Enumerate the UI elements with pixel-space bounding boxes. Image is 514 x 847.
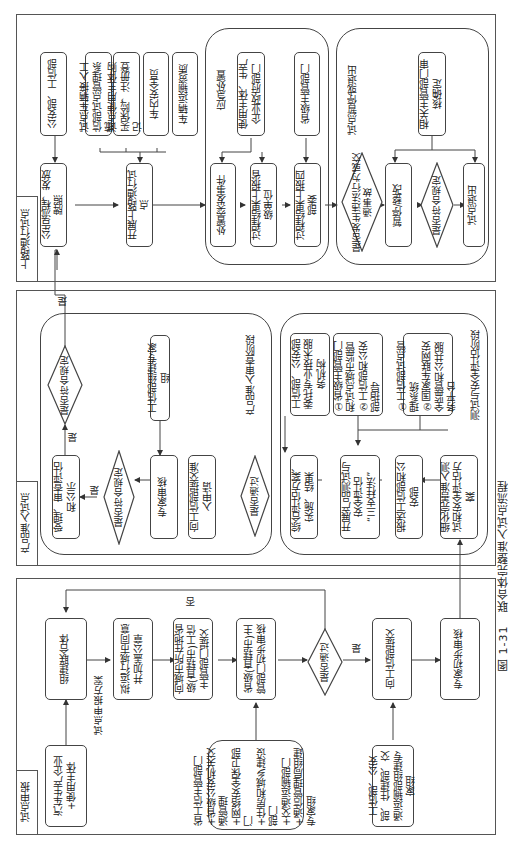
node-report-provincial: 过程结果上报省级单位	[250, 163, 277, 247]
group-title-exit: 试点暂停或退出	[345, 65, 360, 135]
group-title-review-stage: 产品准入审查阶段	[243, 335, 258, 415]
node-user-mfr-gov: 使用主体、生产企业政府部门	[237, 52, 265, 136]
node-provincial-depts: 省工信主管部门 +省级公安机关交通管理 +网络安全保卫部门 +住房和城乡建设部门…	[208, 740, 304, 830]
decision-passed-middle: 是否通过	[240, 455, 270, 537]
node-city-consent: 拟运行城市同意并加盖公章	[113, 618, 153, 700]
decision-compliant-2: 是否符合规定	[103, 450, 135, 545]
node-supervision: ①省级主管部门和试点城市监管 ②工信部和公安部指导	[333, 333, 383, 416]
node-systems: ①工信部试点管理系统 ②国家车联网安全监管和公共服务平台	[403, 333, 453, 416]
node-tech-agency: 工信部、公安部委托专业技术服务机构	[290, 333, 330, 416]
tag-road-pilot: 上路通行试点	[16, 196, 38, 282]
group-title-emergency: 应急处置	[214, 70, 229, 110]
node-manufacturer-user: 汽车生产企业+使用主体	[45, 745, 87, 827]
node-submit-access: 向工信部提交准入申请	[188, 455, 216, 539]
edge-label-plan: 试点申报方案	[92, 675, 106, 735]
figure-caption-vertical: 图 1-31 联合体完整准入试点流程	[496, 480, 512, 671]
edge-label-yes-3: 是	[88, 485, 102, 495]
node-handle-incident: 处置突发事件	[210, 163, 236, 247]
node-report-ministries: 报送工信部和公安部	[395, 455, 423, 539]
node-miit-expert-group: 工信部组建专家组	[150, 335, 170, 421]
node-overall-assessment: 综合评估方案、实施、结果	[290, 455, 318, 539]
node-start-road-pilot: 开展上路通行试点	[126, 163, 153, 247]
node-report-four: 过程结果上报四部委	[294, 163, 321, 247]
node-expert-prelim-review: 专家初步审核	[440, 618, 480, 700]
edge-label-yes-bottom: 是	[350, 643, 364, 653]
node-provincial-dept: 省级主管部门	[294, 52, 320, 136]
node-product-test: 开展产品测试与安全评估 “三支柱法”	[340, 455, 380, 539]
edge-label-yes-1: 是	[56, 296, 70, 306]
tag-pilot-application: 试点申报	[16, 770, 38, 835]
edge-label-yes-2: 是	[66, 432, 80, 442]
node-expert-review: 专家审核	[150, 455, 178, 539]
node-submit-provincial: 向城市所在地省级(直辖市)工信主管部门提交	[173, 618, 213, 700]
node-insurance-register: 试点使用主体购买保险，注册登记	[113, 52, 140, 136]
decision-violation: 是否发生违法行为或交通事故	[341, 152, 383, 252]
node-refine-plan: 细化完善准入测试和安全评估方案	[440, 455, 478, 539]
node-safety-officer: 车内安全员	[143, 52, 169, 136]
node-provincial-review: 省级(直辖市)主管部门初步审核	[236, 618, 276, 700]
node-form-consortium: 组建联合体	[45, 618, 87, 700]
decision-compliant-1: 是否符合规定	[47, 345, 83, 425]
node-ministries: 工信部、公安部、住建部、交通运输部组建专家组	[372, 745, 414, 827]
node-submit-miit: 向工信部提交	[372, 618, 412, 700]
node-transport-qualification: 车辆运输资质	[172, 52, 198, 136]
node-authority-confirm: 相关主管部门审核确定	[418, 52, 446, 136]
edge-label-no: 否	[184, 596, 198, 606]
node-accept-review: 受理、审查评估和公示	[52, 455, 80, 539]
group-title-test-stage: 测试与安全评估阶段	[468, 330, 483, 420]
decision-passed-bottom: 是否通过	[307, 628, 343, 696]
node-exit-pilot: 试点退出	[463, 163, 485, 247]
node-suspend-rectify: 暂停/整改	[385, 163, 412, 247]
node-mps-miit: 公安部、工信部	[40, 52, 67, 136]
decision-compliant-exit: 是否符合规定	[420, 162, 454, 248]
node-announce-plates: 公告流程，发放牌照	[40, 163, 67, 247]
tag-product-access: 产品准入试点	[16, 481, 38, 566]
